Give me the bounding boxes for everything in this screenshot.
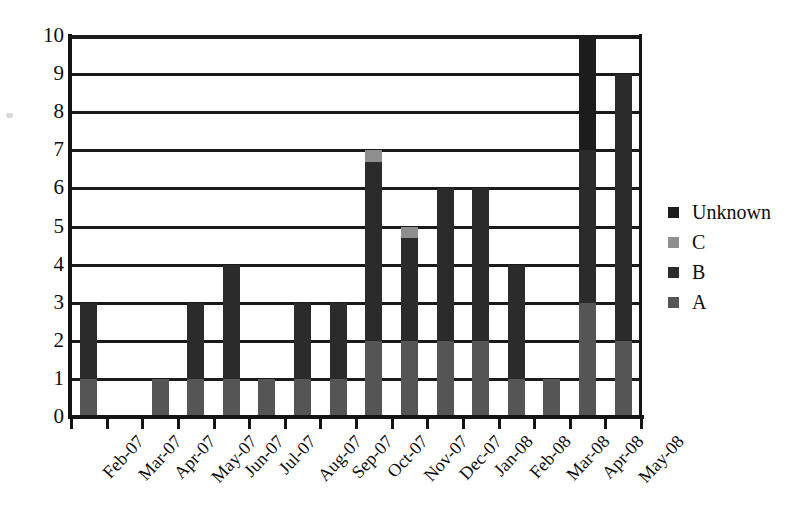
chart-root: 012345678910 Feb-07Mar-07Apr-07May-07Jun… [0, 0, 812, 523]
gridline [71, 226, 641, 229]
bar-segment-a [152, 379, 169, 417]
bar-segment-a [187, 379, 204, 417]
plot-area [71, 36, 641, 417]
bar-segment-b [579, 150, 596, 302]
y-tick-label: 7 [24, 139, 64, 160]
gridline [71, 302, 641, 305]
bar-stack [508, 265, 525, 417]
bar-segment-b [223, 265, 240, 379]
y-axis-ticks: 012345678910 [12, 0, 64, 523]
bar-segment-a [508, 379, 525, 417]
bar-stack [223, 265, 240, 417]
bar-stack [365, 150, 382, 417]
bar-stack [401, 227, 418, 418]
y-tick-label: 2 [24, 330, 64, 351]
bar-stack [615, 74, 632, 417]
bar-segment-b [437, 188, 454, 340]
legend-item-a: A [668, 287, 808, 317]
bar-segment-a [223, 379, 240, 417]
x-tick-mark [106, 418, 109, 429]
bar-segment-b [401, 238, 418, 341]
y-axis-line [68, 34, 72, 419]
bar-segment-b [615, 74, 632, 341]
bar-segment-b [187, 303, 204, 379]
bar-segment-a [472, 341, 489, 417]
x-tick-mark [533, 418, 536, 429]
bar-segment-c [401, 227, 418, 238]
legend-swatch-c [668, 237, 679, 248]
bar-segment-a [579, 303, 596, 417]
chart-legend: Unknown C B A [668, 197, 808, 317]
bar-segment-a [543, 379, 560, 417]
bar-stack [80, 303, 97, 417]
x-tick-mark [213, 418, 216, 429]
bar-segment-a [437, 341, 454, 417]
y-tick-label: 0 [24, 406, 64, 427]
legend-item-b: B [668, 257, 808, 287]
legend-label-c: C [692, 232, 705, 252]
y-tick-label: 6 [24, 177, 64, 198]
gridline [71, 340, 641, 343]
gridline [71, 73, 641, 76]
bar-segment-unknown [579, 36, 596, 150]
gridline [71, 264, 641, 267]
bar-stack [437, 188, 454, 417]
legend-swatch-b [668, 267, 679, 278]
y-tick-label: 10 [24, 25, 64, 46]
legend-swatch-unknown [668, 207, 679, 218]
x-tick-mark [391, 418, 394, 429]
bar-segment-c [365, 150, 382, 161]
bar-stack [258, 379, 275, 417]
bar-stack [187, 303, 204, 417]
bar-stack [543, 379, 560, 417]
x-tick-mark [141, 418, 144, 429]
bar-segment-b [294, 303, 311, 379]
x-tick-mark [462, 418, 465, 429]
bar-segment-a [330, 379, 347, 417]
y-tick-label: 4 [24, 254, 64, 275]
gridline [71, 149, 641, 152]
x-tick-mark [355, 418, 358, 429]
bar-segment-a [365, 341, 382, 417]
bar-stack [579, 36, 596, 417]
x-tick-mark [498, 418, 501, 429]
gridline [71, 187, 641, 190]
bar-segment-a [258, 379, 275, 417]
bar-stack [294, 303, 311, 417]
x-tick-mark [640, 418, 643, 429]
x-tick-mark [177, 418, 180, 429]
legend-item-unknown: Unknown [668, 197, 808, 227]
bar-stack [152, 379, 169, 417]
gridline [71, 35, 641, 39]
bar-segment-a [294, 379, 311, 417]
x-tick-mark [70, 418, 73, 429]
y-tick-label: 5 [24, 216, 64, 237]
bar-segment-b [508, 265, 525, 379]
bar-segment-b [365, 162, 382, 341]
bar-segment-a [401, 341, 418, 417]
bar-stack [472, 188, 489, 417]
y-tick-label: 1 [24, 368, 64, 389]
bar-stack [330, 303, 347, 417]
x-tick-mark [604, 418, 607, 429]
bar-segment-b [330, 303, 347, 379]
y-tick-label: 8 [24, 101, 64, 122]
legend-swatch-a [668, 297, 679, 308]
legend-label-unknown: Unknown [692, 202, 771, 222]
plot-right-border [639, 34, 642, 419]
bar-segment-b [472, 188, 489, 340]
y-tick-label: 3 [24, 292, 64, 313]
y-tick-label: 9 [24, 63, 64, 84]
gridline [71, 111, 641, 114]
x-tick-mark [284, 418, 287, 429]
bar-segment-a [80, 379, 97, 417]
x-tick-mark [426, 418, 429, 429]
x-tick-mark [248, 418, 251, 429]
legend-item-c: C [668, 227, 808, 257]
bar-segment-a [615, 341, 632, 417]
x-tick-mark [569, 418, 572, 429]
x-tick-mark [319, 418, 322, 429]
legend-label-a: A [692, 292, 706, 312]
bar-segment-b [80, 303, 97, 379]
legend-label-b: B [692, 262, 705, 282]
